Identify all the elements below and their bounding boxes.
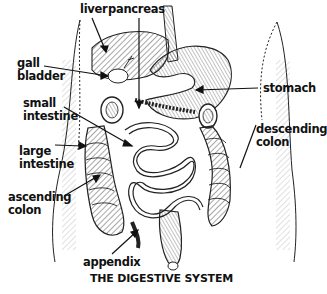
label-small-intestine: small intestine bbox=[23, 97, 78, 123]
label-pancreas: pancreas bbox=[108, 3, 165, 16]
label-gall-bladder: gall bladder bbox=[17, 57, 65, 83]
label-liver: liver bbox=[80, 3, 107, 16]
label-stomach: stomach bbox=[263, 82, 316, 95]
label-large-intestine: large intestine bbox=[19, 145, 74, 171]
label-descending-colon: descending colon bbox=[256, 123, 327, 149]
descending-colon bbox=[200, 126, 230, 226]
rectum bbox=[159, 210, 181, 265]
diagram-title: THE DIGESTIVE SYSTEM bbox=[0, 272, 323, 285]
label-appendix: appendix bbox=[83, 256, 140, 269]
label-ascending-colon: ascending colon bbox=[8, 191, 71, 217]
small-intestine bbox=[125, 123, 203, 218]
gall-bladder bbox=[108, 69, 128, 83]
